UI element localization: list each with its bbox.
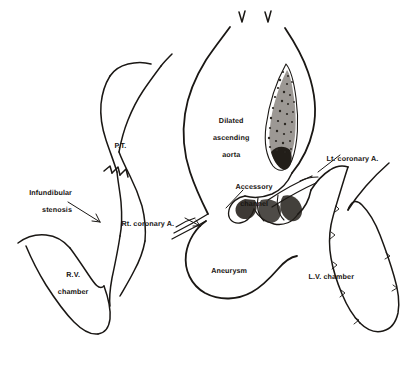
intimal-dissection-mass	[265, 64, 297, 170]
label-rt-coronary-artery: Rt. coronary A.	[113, 211, 174, 237]
rt-coronary-text: Rt. coronary A.	[121, 219, 174, 228]
infundibular-stenosis-text-line1: Infundibular	[29, 188, 72, 197]
label-dilated-ascending-aorta: Dilated ascending aorta	[199, 108, 255, 168]
label-pulmonary-trunk: P.T.	[106, 133, 126, 159]
label-infundibular-stenosis: Infundibular stenosis	[8, 180, 72, 223]
aneurysm-text: Aneurysm	[211, 266, 247, 275]
accessory-channel-text-line2: channel	[240, 199, 268, 208]
label-aneurysm: Aneurysm	[203, 258, 247, 284]
arch-branch-stub-right-icon	[265, 11, 271, 22]
dilated-aorta-text-line1: Dilated	[219, 116, 244, 125]
anatomical-figure: P.T. Infundibular stenosis R.V. chamber …	[0, 0, 405, 375]
dilated-aorta-text-line2: ascending	[213, 133, 249, 142]
label-lt-coronary-artery: Lt. coronary A.	[318, 146, 378, 172]
infundibular-stenosis-text-line2: stenosis	[42, 205, 72, 214]
dilated-aorta-text-line3: aorta	[222, 150, 240, 159]
accessory-channel-text-line1: Accessory	[235, 182, 272, 191]
left-ventricle-outline	[311, 163, 399, 332]
label-rv-chamber: R.V. chamber	[43, 262, 95, 305]
rv-chamber-text-line1: R.V.	[66, 270, 80, 279]
lv-chamber-text: L.V. chamber	[308, 272, 354, 281]
lt-coronary-text: Lt. coronary A.	[326, 154, 378, 163]
pulmonary-trunk-text: P.T.	[114, 141, 126, 150]
label-lv-chamber: L.V. chamber	[300, 264, 354, 290]
right-coronary-artery-vessel	[172, 214, 208, 239]
arch-branch-stub-left-icon	[239, 11, 245, 22]
label-accessory-channel: Accessory channel	[221, 174, 279, 217]
rv-chamber-text-line2: chamber	[58, 287, 89, 296]
